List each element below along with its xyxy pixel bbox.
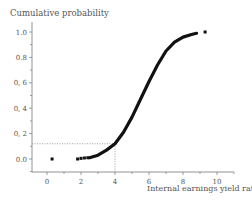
axes <box>32 22 234 172</box>
data-points <box>51 31 207 161</box>
reference-lines <box>32 144 115 172</box>
y-tick-label: 0, 4 <box>14 105 28 113</box>
y-tick-label: 0, 2 <box>14 130 27 138</box>
y-tick-label: 1.0 <box>16 29 27 37</box>
data-point <box>204 31 207 34</box>
data-point <box>80 157 83 160</box>
data-point <box>51 158 54 161</box>
y-tick-label: 0, 6 <box>14 79 28 87</box>
data-curve <box>90 33 197 157</box>
cumulative-probability-chart: Cumulative probability 02468100.00, 20, … <box>0 0 252 202</box>
y-tick-label: 0.8 <box>16 54 27 62</box>
axis-ticks: 02468100.00, 20, 40, 60.81.0 <box>14 29 234 187</box>
data-point <box>83 156 86 159</box>
x-tick-label: 2 <box>79 178 83 186</box>
data-point <box>76 158 79 161</box>
x-tick-label: 0 <box>45 178 49 186</box>
x-tick-label: 4 <box>113 178 118 186</box>
cumulative-curve <box>90 33 197 157</box>
y-tick-label: 0.0 <box>16 156 27 164</box>
data-point <box>86 156 89 159</box>
y-axis-label: Cumulative probability <box>10 8 109 18</box>
x-axis-label: Internal earnings yield ratio % <box>147 184 252 193</box>
